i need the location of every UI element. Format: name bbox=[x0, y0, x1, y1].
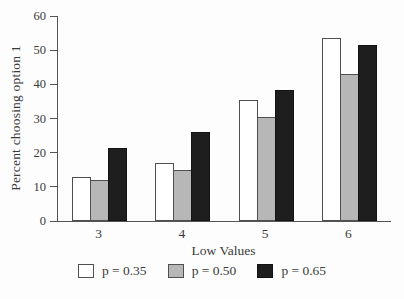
bar-4-p050 bbox=[173, 170, 192, 221]
y-tick-mark-10 bbox=[50, 186, 57, 187]
bar-4-p065 bbox=[191, 132, 210, 221]
bar-6-p050 bbox=[340, 74, 359, 221]
y-tick-mark-50 bbox=[50, 50, 57, 51]
y-tick-mark-20 bbox=[50, 152, 57, 153]
legend-item-p050: p = 0.50 bbox=[168, 263, 237, 279]
y-tick-label-10: 10 bbox=[12, 180, 46, 194]
y-tick-label-40: 40 bbox=[12, 77, 46, 91]
bar-group-6 bbox=[322, 38, 377, 221]
y-tick-mark-60 bbox=[50, 16, 57, 17]
y-tick-label-50: 50 bbox=[12, 43, 46, 57]
bar-5-p035 bbox=[239, 100, 258, 221]
bar-3-p065 bbox=[108, 148, 127, 222]
bar-group-3 bbox=[72, 148, 127, 222]
bar-6-p035 bbox=[322, 38, 341, 221]
y-tick-label-60: 60 bbox=[12, 9, 46, 23]
x-tick-label-5: 5 bbox=[224, 226, 307, 242]
legend: p = 0.35p = 0.50p = 0.65 bbox=[0, 263, 404, 279]
bar-5-p065 bbox=[275, 90, 294, 222]
legend-swatch-p050 bbox=[168, 264, 184, 278]
bar-3-p050 bbox=[90, 180, 109, 221]
bar-4-p035 bbox=[155, 163, 174, 221]
legend-swatch-p035 bbox=[78, 264, 94, 278]
y-tick-mark-40 bbox=[50, 84, 57, 85]
plot-area: 0102030405060 bbox=[57, 16, 391, 222]
y-tick-mark-30 bbox=[50, 118, 57, 119]
legend-label-p035: p = 0.35 bbox=[102, 263, 147, 279]
y-tick-label-0: 0 bbox=[12, 214, 46, 228]
bar-groups bbox=[58, 16, 391, 221]
y-tick-mark-0 bbox=[50, 221, 57, 222]
legend-swatch-p065 bbox=[257, 264, 273, 278]
legend-label-p050: p = 0.50 bbox=[192, 263, 237, 279]
y-tick-label-20: 20 bbox=[12, 146, 46, 160]
bar-6-p065 bbox=[358, 45, 377, 221]
legend-item-p035: p = 0.35 bbox=[78, 263, 147, 279]
legend-label-p065: p = 0.65 bbox=[281, 263, 326, 279]
bar-chart-figure: Percent choosing option 1 0102030405060 … bbox=[0, 0, 404, 299]
x-tick-label-6: 6 bbox=[307, 226, 390, 242]
x-tick-label-4: 4 bbox=[140, 226, 223, 242]
y-tick-label-30: 30 bbox=[12, 112, 46, 126]
bar-group-5 bbox=[239, 90, 294, 222]
bar-5-p050 bbox=[257, 117, 276, 221]
legend-item-p065: p = 0.65 bbox=[257, 263, 326, 279]
x-axis-ticks: 3456 bbox=[57, 226, 390, 242]
bar-3-p035 bbox=[72, 177, 91, 221]
x-tick-label-3: 3 bbox=[57, 226, 140, 242]
bar-group-4 bbox=[155, 132, 210, 221]
x-axis-label: Low Values bbox=[57, 243, 390, 259]
